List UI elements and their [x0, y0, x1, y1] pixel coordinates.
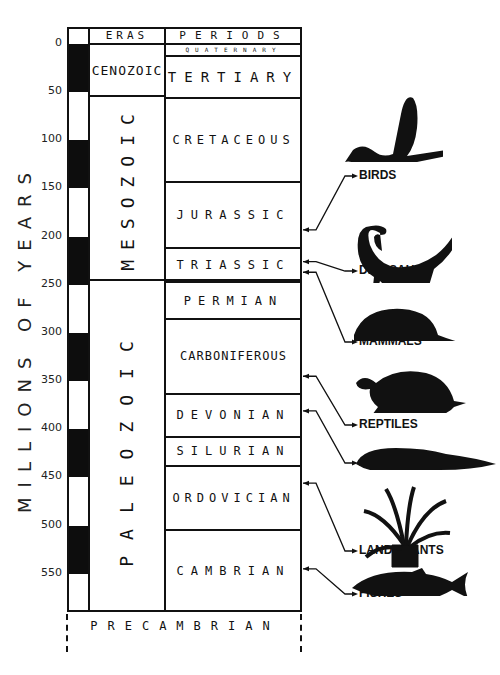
life-form-label: REPTILES	[359, 417, 418, 431]
bird-silhouette-icon	[333, 80, 443, 162]
mammal-silhouette-icon	[344, 295, 494, 341]
arrowhead-icon	[303, 270, 309, 275]
origin-arrow-line	[303, 411, 355, 463]
arrowhead-icon	[303, 481, 309, 486]
arrowhead-icon	[352, 174, 358, 179]
amphibian-silhouette-icon	[350, 438, 500, 470]
arrowhead-icon	[352, 423, 358, 428]
cycad-plant-silhouette-icon	[356, 485, 456, 571]
life-form-label: BIRDS	[359, 168, 396, 182]
origin-arrow-line	[303, 483, 355, 551]
arrowhead-icon	[303, 227, 309, 232]
arrowhead-icon	[303, 259, 309, 264]
turtle-silhouette-icon	[348, 365, 468, 413]
arrowhead-icon	[303, 566, 309, 571]
arrowhead-icon	[303, 374, 309, 379]
dinosaur-silhouette-icon	[340, 193, 452, 283]
fish-silhouette-icon	[348, 566, 478, 596]
arrowhead-icon	[303, 408, 309, 413]
